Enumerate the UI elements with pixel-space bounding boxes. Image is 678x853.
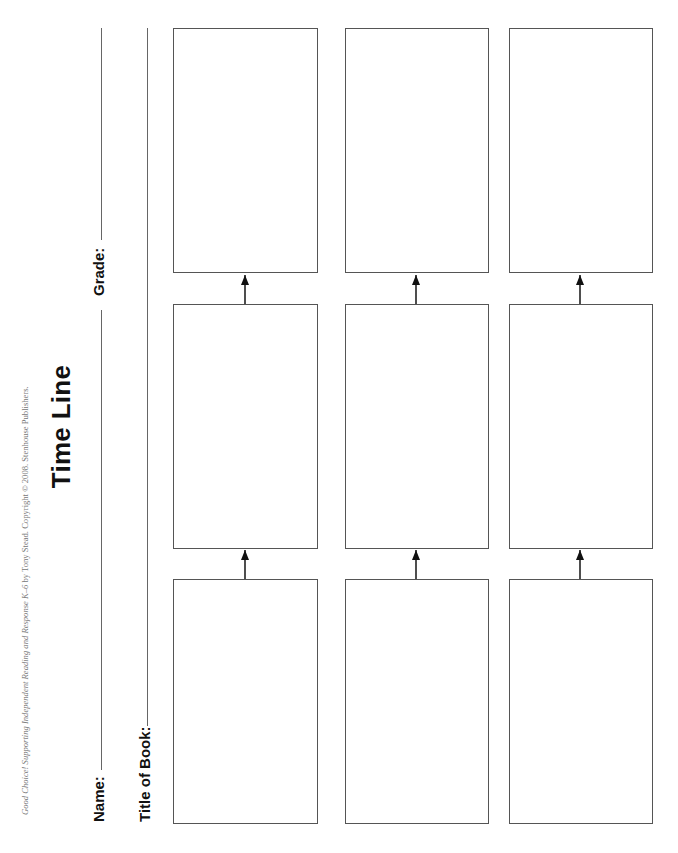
worksheet-page: Good Choice! Supporting Independent Read…: [0, 0, 678, 853]
page-title: Time Line: [46, 0, 77, 853]
grade-line[interactable]: [101, 28, 102, 240]
timeline-box-row2-1[interactable]: [345, 579, 489, 824]
timeline-box-row1-2[interactable]: [173, 304, 318, 549]
copyright-book-title: Good Choice! Supporting Independent Read…: [20, 585, 30, 815]
timeline-box-row1-1[interactable]: [173, 579, 318, 824]
timeline-box-row3-3[interactable]: [509, 28, 653, 273]
name-label: Name:: [90, 776, 107, 822]
timeline-box-row3-1[interactable]: [509, 579, 653, 824]
copyright-text: by Tony Stead. Copyright © 2008. Stenhou…: [20, 386, 30, 584]
title-of-book-label: Title of Book:: [136, 726, 153, 822]
timeline-box-row1-3[interactable]: [173, 28, 318, 273]
timeline-box-row2-3[interactable]: [345, 28, 489, 273]
grade-label: Grade:: [90, 248, 107, 296]
title-of-book-line[interactable]: [147, 28, 148, 726]
copyright-notice: Good Choice! Supporting Independent Read…: [20, 386, 30, 815]
name-line[interactable]: [101, 310, 102, 770]
timeline-box-row2-2[interactable]: [345, 304, 489, 549]
timeline-box-row3-2[interactable]: [509, 304, 653, 549]
